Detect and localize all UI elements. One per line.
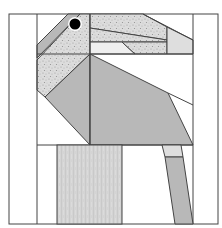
bird-quilt-illustration [0, 0, 222, 228]
leg-light-piece [162, 145, 183, 157]
quilt-block-canvas: Bird quilt block [0, 0, 222, 228]
eye-icon [70, 19, 81, 30]
leg-texture-piece [57, 145, 122, 224]
